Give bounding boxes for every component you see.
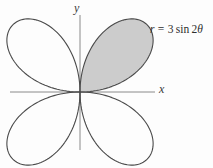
- petal-quadrant-4: [7, 19, 80, 92]
- x-axis-label: x: [159, 83, 164, 95]
- polar-rose-figure: y x r = 3 sin 2θ: [0, 0, 213, 168]
- curve-equation-label: r = 3 sin 2θ: [150, 24, 203, 36]
- petal-quadrant-2: [80, 92, 153, 165]
- petal-quadrant-3: [7, 92, 80, 165]
- equation-theta-symbol: θ: [197, 23, 203, 35]
- y-axis-label: y: [74, 2, 79, 14]
- petal-quadrant-1-shaded: [80, 19, 153, 92]
- equation-sin-function: sin: [176, 23, 189, 35]
